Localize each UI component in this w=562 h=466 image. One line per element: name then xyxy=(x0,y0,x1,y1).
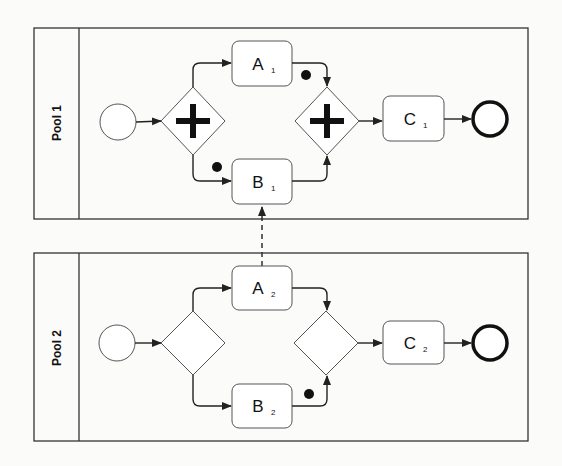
svg-text:2: 2 xyxy=(423,345,428,354)
end-event-icon[interactable] xyxy=(473,102,507,136)
task-a2[interactable]: A 2 xyxy=(232,266,292,310)
sequence-flow xyxy=(193,155,231,181)
svg-text:A: A xyxy=(252,55,264,74)
task-a1[interactable]: A 1 xyxy=(232,41,292,86)
svg-text:A: A xyxy=(252,279,264,298)
task-c2[interactable]: C 2 xyxy=(383,321,444,364)
parallel-gateway-split-icon[interactable] xyxy=(161,87,225,155)
svg-text:2: 2 xyxy=(271,408,276,417)
svg-text:2: 2 xyxy=(271,290,276,299)
sequence-flow xyxy=(193,63,231,87)
svg-text:1: 1 xyxy=(271,66,276,75)
exclusive-gateway-join-icon[interactable] xyxy=(294,311,358,375)
svg-text:1: 1 xyxy=(423,121,428,130)
sequence-flow xyxy=(136,121,161,122)
task-b2[interactable]: B 2 xyxy=(232,384,292,428)
task-b1[interactable]: B 1 xyxy=(232,159,292,204)
svg-text:C: C xyxy=(404,334,416,353)
pool-1: Pool 1 A 1 B 1 xyxy=(34,28,528,219)
pool-2: Pool 2 A 2 B 2 C 2 xyxy=(34,253,528,441)
task-c1[interactable]: C 1 xyxy=(383,96,444,141)
sequence-flow xyxy=(193,288,231,311)
svg-text:B: B xyxy=(252,173,263,192)
exclusive-gateway-split-icon[interactable] xyxy=(161,311,225,375)
sequence-flow xyxy=(193,375,231,406)
svg-text:B: B xyxy=(252,397,263,416)
token-icon xyxy=(301,70,311,80)
start-event-icon[interactable] xyxy=(99,325,135,361)
end-event-icon[interactable] xyxy=(473,326,507,360)
start-event-icon[interactable] xyxy=(100,104,136,140)
parallel-gateway-join-icon[interactable] xyxy=(295,87,359,155)
pool-1-label: Pool 1 xyxy=(50,105,64,141)
pool-2-label: Pool 2 xyxy=(50,330,64,366)
svg-text:C: C xyxy=(404,110,416,129)
sequence-flow xyxy=(292,288,327,310)
svg-text:1: 1 xyxy=(271,184,276,193)
sequence-flow xyxy=(292,156,327,181)
bpmn-diagram: Pool 1 A 1 B 1 xyxy=(0,0,562,466)
token-icon xyxy=(304,389,314,399)
token-icon xyxy=(212,162,222,172)
